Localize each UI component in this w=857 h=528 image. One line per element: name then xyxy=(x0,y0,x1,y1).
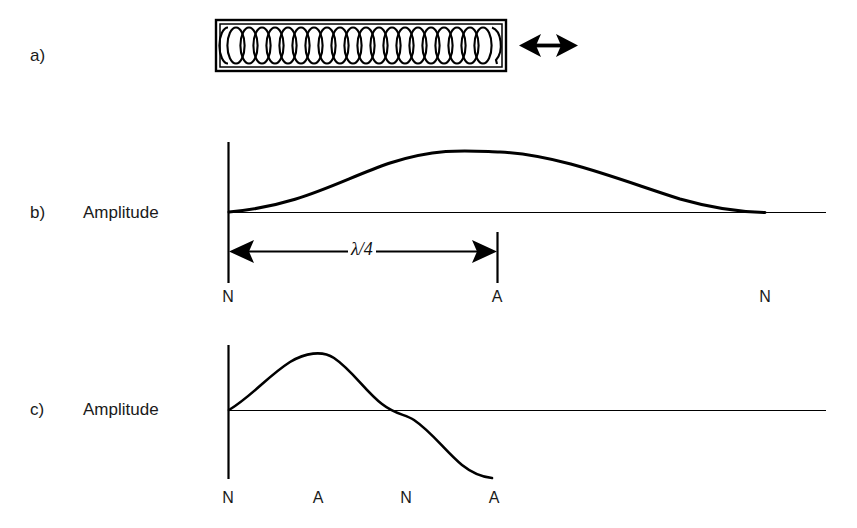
panel-c-node-label-3: A xyxy=(484,489,504,507)
panel-c-graphics xyxy=(0,0,857,528)
panel-c-node-label-1: A xyxy=(308,489,328,507)
figure-root: a) xyxy=(0,0,857,528)
panel-c-node-label-0: N xyxy=(218,489,238,507)
panel-c-wave-curve xyxy=(229,353,492,478)
panel-c-node-label-2: N xyxy=(396,489,416,507)
